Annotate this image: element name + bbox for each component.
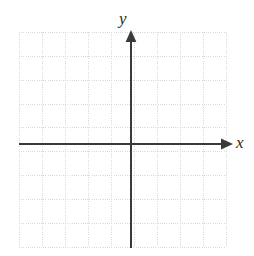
coordinate-plane-figure: y x <box>0 0 254 256</box>
grid-vertical-lines <box>20 32 227 248</box>
grid-horizontal-lines <box>19 33 226 248</box>
y-axis-label: y <box>119 10 127 27</box>
coordinate-plane-canvas <box>0 0 254 256</box>
x-axis-label: x <box>236 134 244 151</box>
